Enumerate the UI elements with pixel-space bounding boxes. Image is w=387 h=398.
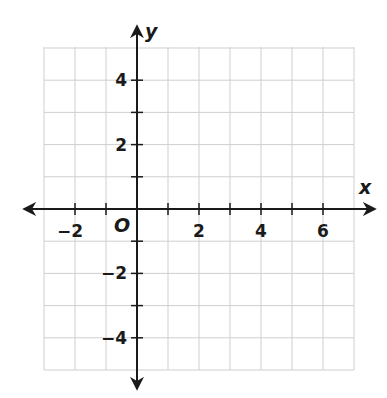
y-tick-label: 2 [115,135,127,155]
x-tick-label: −2 [57,221,83,241]
x-tick-label: 4 [255,221,267,241]
x-axis-label: x [358,176,372,198]
y-tick-label: −2 [101,263,127,283]
coordinate-plane: −224642−2−4 x y O [0,0,387,398]
y-tick-label: 4 [115,70,127,90]
x-tick-label: 2 [193,221,205,241]
x-tick-label: 6 [317,221,329,241]
origin-label: O [114,214,130,236]
y-axis-label: y [145,20,159,42]
y-tick-label: −4 [101,328,127,348]
